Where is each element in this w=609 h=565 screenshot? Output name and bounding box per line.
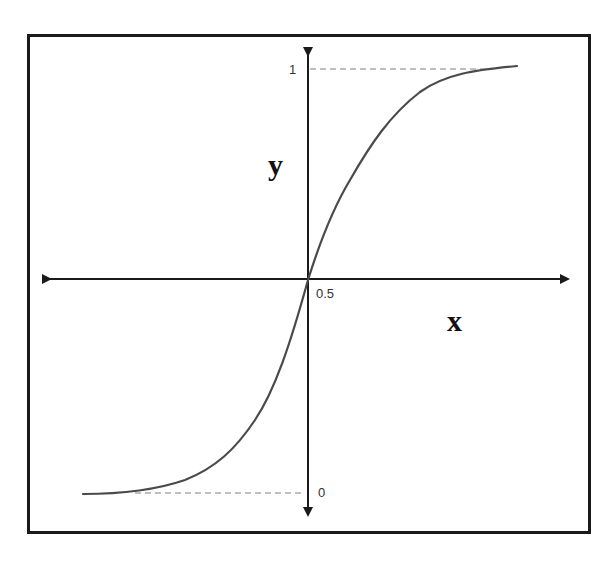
- x-axis-title: x: [447, 304, 462, 337]
- y-axis-title: y: [268, 148, 283, 181]
- upper-asymptote-label: 1: [289, 62, 296, 77]
- sigmoid-plot: 1 0.5 0 y x: [0, 0, 609, 565]
- origin-label: 0.5: [316, 286, 334, 301]
- lower-asymptote-label: 0: [318, 485, 325, 500]
